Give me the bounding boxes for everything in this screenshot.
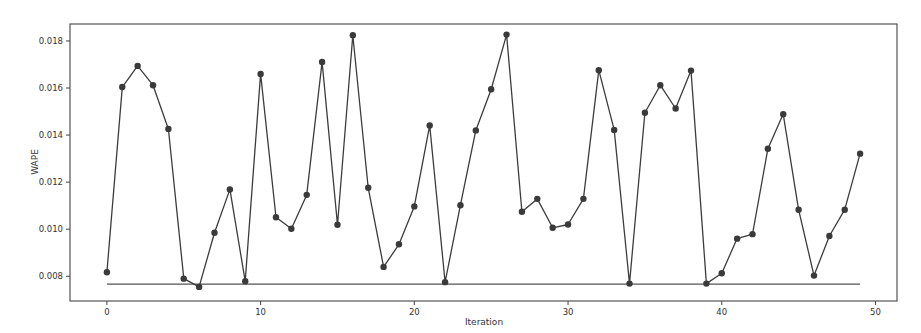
- y-tick-label: 0.008: [39, 271, 63, 281]
- data-point-marker: [672, 105, 678, 111]
- wape-series: [104, 31, 864, 290]
- data-point-marker: [749, 231, 755, 237]
- data-point-marker: [795, 206, 801, 212]
- data-point-marker: [134, 63, 140, 69]
- data-point-marker: [365, 185, 371, 191]
- x-tick-label: 50: [870, 307, 881, 317]
- axes-frame: [70, 24, 897, 301]
- data-point-marker: [473, 127, 479, 133]
- y-tick-label: 0.012: [39, 177, 63, 187]
- data-point-marker: [426, 122, 432, 128]
- x-tick-label: 0: [104, 307, 109, 317]
- wape-line-chart: 0.0080.0100.0120.0140.0160.018 010203040…: [0, 0, 921, 333]
- data-point-marker: [442, 279, 448, 285]
- data-point-marker: [488, 86, 494, 92]
- data-point-marker: [196, 284, 202, 290]
- data-point-marker: [811, 272, 817, 278]
- x-tick-label: 20: [409, 307, 420, 317]
- x-axis-label: Iteration: [465, 317, 503, 327]
- data-point-marker: [534, 196, 540, 202]
- data-point-marker: [703, 280, 709, 286]
- data-point-marker: [580, 196, 586, 202]
- data-point-marker: [104, 269, 110, 275]
- data-point-marker: [457, 202, 463, 208]
- wape-line: [107, 35, 860, 287]
- data-point-marker: [380, 264, 386, 270]
- data-point-marker: [842, 206, 848, 212]
- data-point-marker: [319, 59, 325, 65]
- data-point-marker: [273, 214, 279, 220]
- chart-canvas: 0.0080.0100.0120.0140.0160.018 010203040…: [0, 0, 921, 333]
- data-point-marker: [719, 270, 725, 276]
- data-point-marker: [857, 150, 863, 156]
- data-point-marker: [626, 280, 632, 286]
- data-point-marker: [611, 127, 617, 133]
- data-point-marker: [503, 31, 509, 37]
- data-point-marker: [211, 230, 217, 236]
- data-point-marker: [642, 110, 648, 116]
- data-point-marker: [242, 278, 248, 284]
- data-point-marker: [396, 241, 402, 247]
- data-point-marker: [549, 225, 555, 231]
- x-tick-label: 40: [716, 307, 727, 317]
- data-point-marker: [150, 82, 156, 88]
- data-point-marker: [227, 186, 233, 192]
- y-tick-label: 0.010: [39, 224, 63, 234]
- data-point-marker: [565, 221, 571, 227]
- data-point-marker: [780, 111, 786, 117]
- y-axis-ticks: 0.0080.0100.0120.0140.0160.018: [39, 36, 70, 281]
- data-point-marker: [181, 275, 187, 281]
- data-point-marker: [734, 235, 740, 241]
- y-tick-label: 0.014: [39, 130, 63, 140]
- data-point-marker: [688, 67, 694, 73]
- data-point-marker: [765, 146, 771, 152]
- data-point-marker: [350, 32, 356, 38]
- data-point-marker: [165, 126, 171, 132]
- y-axis-label: WAPE: [30, 149, 40, 175]
- data-point-marker: [334, 222, 340, 228]
- data-point-marker: [257, 71, 263, 77]
- data-point-marker: [596, 67, 602, 73]
- plot-area-border: [70, 24, 897, 301]
- data-point-marker: [657, 82, 663, 88]
- data-point-marker: [119, 84, 125, 90]
- x-axis-ticks: 01020304050: [104, 301, 881, 317]
- y-tick-label: 0.016: [39, 83, 63, 93]
- data-point-marker: [826, 233, 832, 239]
- data-point-marker: [519, 209, 525, 215]
- data-point-marker: [288, 226, 294, 232]
- data-point-marker: [304, 192, 310, 198]
- data-point-marker: [411, 203, 417, 209]
- x-tick-label: 10: [255, 307, 266, 317]
- x-tick-label: 30: [563, 307, 574, 317]
- y-tick-label: 0.018: [39, 36, 63, 46]
